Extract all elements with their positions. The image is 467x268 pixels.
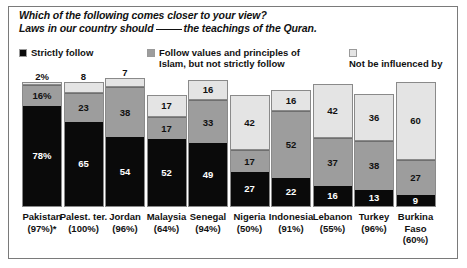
segment-not-influenced: 7	[106, 78, 144, 87]
segment-not-influenced: 8	[65, 82, 103, 92]
category-name-cont: Faso	[404, 223, 426, 234]
category-sublabel: (60%)	[385, 234, 447, 246]
segment-not-influenced: 16	[189, 80, 227, 101]
segment-value-label: 16%	[32, 91, 51, 101]
segment-value-label: 33	[203, 118, 214, 128]
bar-burkina-faso[interactable]: 60279	[396, 82, 436, 207]
segment-strictly-follow: 65	[65, 122, 103, 207]
bar-pakistan[interactable]: 2%16%78%	[22, 82, 62, 207]
segment-value-label: 42	[327, 106, 338, 116]
segment-value-label: 22	[286, 187, 297, 197]
segment-values-not-strict: 38	[106, 87, 144, 136]
segment-values-not-strict: 17	[231, 150, 269, 172]
segment-not-influenced: 36	[355, 94, 393, 141]
segment-value-label: 9	[413, 196, 418, 206]
segment-value-label: 60	[410, 116, 421, 126]
category-label-burkina-faso: BurkinaFaso(60%)	[385, 211, 447, 246]
bar-lebanon[interactable]: 423716	[313, 84, 353, 208]
segment-value-label: 78%	[32, 151, 51, 161]
segment-strictly-follow: 49	[189, 143, 227, 207]
bar-nigeria[interactable]: 421727	[230, 95, 270, 207]
segment-value-label: 38	[120, 108, 131, 118]
segment-value-label: 52	[286, 140, 297, 150]
segment-value-label: 7	[106, 68, 144, 78]
bar-jordan[interactable]: 73854	[105, 78, 145, 207]
segment-value-label: 2%	[23, 72, 61, 82]
stacked-bar-plot: 2%16%78%Pakistan(97%)*82365Palest. ter.(…	[0, 0, 467, 268]
segment-values-not-strict: 38	[355, 141, 393, 190]
segment-value-label: 52	[161, 168, 172, 178]
segment-value-label: 16	[286, 96, 297, 106]
segment-values-not-strict: 33	[189, 100, 227, 143]
segment-value-label: 8	[65, 72, 103, 82]
segment-strictly-follow: 16	[314, 186, 352, 207]
bar-indonesia[interactable]: 165222	[271, 90, 311, 207]
segment-not-influenced: 17	[148, 95, 186, 117]
segment-values-not-strict: 37	[314, 138, 352, 186]
segment-value-label: 17	[161, 101, 172, 111]
segment-strictly-follow: 9	[397, 195, 435, 207]
segment-value-label: 17	[161, 124, 172, 134]
segment-value-label: 27	[410, 173, 421, 183]
segment-values-not-strict: 16%	[23, 85, 61, 106]
segment-value-label: 23	[78, 103, 89, 113]
segment-value-label: 16	[203, 85, 214, 95]
segment-value-label: 42	[244, 118, 255, 128]
segment-values-not-strict: 17	[148, 117, 186, 139]
bar-senegal[interactable]: 163349	[188, 80, 228, 207]
segment-value-label: 65	[78, 159, 89, 169]
segment-not-influenced: 16	[272, 90, 310, 111]
segment-values-not-strict: 23	[65, 93, 103, 123]
segment-strictly-follow: 52	[148, 139, 186, 207]
segment-strictly-follow: 13	[355, 190, 393, 207]
segment-not-influenced: 42	[231, 95, 269, 150]
segment-value-label: 49	[203, 170, 214, 180]
segment-strictly-follow: 22	[272, 178, 310, 207]
segment-value-label: 38	[369, 161, 380, 171]
segment-value-label: 17	[244, 157, 255, 167]
segment-value-label: 16	[327, 191, 338, 201]
segment-value-label: 37	[327, 158, 338, 168]
segment-not-influenced: 42	[314, 84, 352, 139]
segment-strictly-follow: 78%	[23, 106, 61, 207]
bar-turkey[interactable]: 363813	[354, 94, 394, 207]
segment-strictly-follow: 27	[231, 172, 269, 207]
bar-malaysia[interactable]: 171752	[147, 95, 187, 207]
category-name: Burkina	[398, 211, 433, 222]
segment-values-not-strict: 52	[272, 111, 310, 179]
bar-palest-ter[interactable]: 82365	[64, 82, 104, 207]
segment-values-not-strict: 27	[397, 160, 435, 195]
segment-not-influenced: 60	[397, 82, 435, 160]
segment-strictly-follow: 54	[106, 137, 144, 207]
segment-value-label: 27	[244, 184, 255, 194]
segment-value-label: 13	[369, 193, 380, 203]
segment-value-label: 54	[120, 167, 131, 177]
segment-value-label: 36	[369, 113, 380, 123]
